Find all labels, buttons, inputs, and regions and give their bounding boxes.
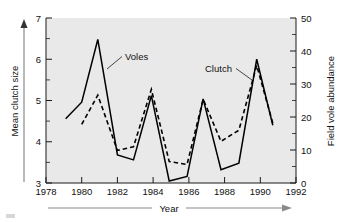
scan-artifact bbox=[6, 214, 15, 218]
left-tick-label-5: 5 bbox=[36, 95, 41, 106]
y2-axis-title: Field vole abundance bbox=[325, 56, 336, 146]
right-tick-label-20: 20 bbox=[301, 112, 312, 123]
chart-figure: 7 6 5 4 3 50 40 30 20 10 0 bbox=[0, 0, 347, 222]
left-tick-label-4: 4 bbox=[36, 136, 41, 147]
x-tick-label-1984: 1984 bbox=[143, 186, 164, 197]
x-tick-label-1978: 1978 bbox=[35, 186, 56, 197]
x-tick-label-1980: 1980 bbox=[71, 186, 92, 197]
x-tick-label-1990: 1990 bbox=[250, 186, 271, 197]
x-tick-label-1986: 1986 bbox=[178, 186, 199, 197]
left-tick-label-6: 6 bbox=[36, 54, 41, 65]
plot-area-background bbox=[46, 18, 296, 183]
right-tick-label-50: 50 bbox=[301, 13, 312, 24]
right-tick-label-40: 40 bbox=[301, 46, 312, 57]
x-tick-label-1992: 1992 bbox=[285, 186, 306, 197]
annotation-clutch-label: Clutch bbox=[205, 63, 232, 74]
right-tick-label-30: 30 bbox=[301, 79, 312, 90]
x-tick-label-1982: 1982 bbox=[107, 186, 128, 197]
chart-svg: 7 6 5 4 3 50 40 30 20 10 0 bbox=[0, 0, 347, 222]
x-tick-label-1988: 1988 bbox=[214, 186, 235, 197]
right-tick-label-10: 10 bbox=[301, 145, 312, 156]
left-tick-label-7: 7 bbox=[36, 13, 41, 24]
annotation-voles-label: Voles bbox=[125, 51, 148, 62]
y-axis-title: Mean clutch size bbox=[9, 66, 20, 137]
x-axis-title: Year bbox=[159, 203, 178, 214]
